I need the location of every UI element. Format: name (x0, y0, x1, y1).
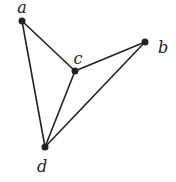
vertex-label-b: b (158, 38, 168, 57)
vertex-label-d: d (37, 157, 47, 176)
vertex-c (72, 68, 79, 75)
vertices (19, 18, 149, 151)
graph-diagram: abcd (0, 0, 176, 182)
vertex-label-a: a (17, 0, 27, 17)
vertex-d (42, 144, 49, 151)
edge-c-d (45, 71, 75, 147)
vertex-b (142, 39, 149, 46)
edges (22, 21, 145, 147)
vertex-labels: abcd (17, 0, 168, 176)
vertex-a (19, 18, 26, 25)
edge-c-b (75, 42, 145, 71)
vertex-label-c: c (74, 49, 83, 68)
